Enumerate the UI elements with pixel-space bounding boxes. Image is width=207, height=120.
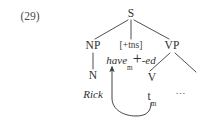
head-movement-arrow bbox=[109, 66, 151, 117]
branch-vp-xp bbox=[175, 53, 196, 72]
tree-node-v: V bbox=[148, 72, 157, 84]
affix-host-have-ed: havem+-ed bbox=[106, 51, 155, 70]
affix-host-affix: -ed bbox=[142, 54, 156, 66]
tree-branches bbox=[0, 0, 207, 120]
terminal-ellipsis: … bbox=[176, 86, 187, 96]
tree-node-n: N bbox=[89, 70, 98, 82]
tree-node-np: NP bbox=[85, 40, 100, 52]
affix-host-base: have bbox=[106, 54, 127, 66]
tree-node-s: S bbox=[128, 8, 135, 20]
terminal-rick: Rick bbox=[83, 89, 103, 100]
trace-subscript: m bbox=[151, 100, 157, 108]
syntax-tree-figure: (29) S NP [+tns] VP N V havem+-ed bbox=[0, 0, 207, 120]
tree-node-vp: VP bbox=[164, 40, 179, 52]
branch-s-vp bbox=[134, 20, 169, 39]
terminal-trace: tm bbox=[148, 87, 157, 106]
affix-host-subscript: m bbox=[127, 64, 133, 72]
branch-s-np bbox=[95, 20, 128, 39]
